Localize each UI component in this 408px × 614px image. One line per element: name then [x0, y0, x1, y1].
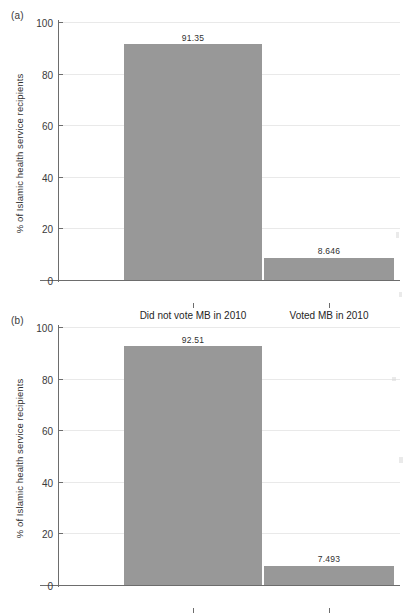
panel-a-ytick-40-label: 40	[42, 174, 58, 184]
panel-a-bar-did-not-vote	[124, 44, 262, 280]
panel-b-ytick-100: 100	[36, 318, 58, 336]
panel-b-xtick-mark-voted	[329, 608, 330, 613]
scan-artifact	[399, 457, 403, 463]
panel-b-ytick-20-label: 20	[42, 530, 58, 540]
panel-b-x-axis-spine	[40, 585, 400, 586]
panel-a-ytick-0: 0	[47, 271, 58, 289]
panel-a-bar-label-did-not-vote: 91.35	[182, 33, 204, 43]
scan-artifact	[396, 232, 399, 238]
panel-b: (b) % of Islamic health service recipien…	[0, 305, 408, 614]
panel-a-ytick-20: 20	[42, 219, 58, 237]
panel-a-ytick-100: 100	[36, 13, 58, 31]
panel-a-ytick-60-mark	[58, 125, 63, 126]
panel-b-ytick-60-mark	[58, 430, 63, 431]
panel-b-ytick-40-mark	[58, 482, 63, 483]
panel-a-ytick-40: 40	[42, 168, 58, 186]
panel-a-ytick-60-label: 60	[42, 122, 58, 132]
scan-artifact	[399, 292, 402, 297]
panel-b-ytick-80: 80	[42, 370, 58, 388]
panel-b-gridline-100	[58, 327, 400, 328]
panel-b-ytick-40-label: 40	[42, 479, 58, 489]
panel-a-plot-area: 0 20 40 60 80 100	[58, 22, 400, 280]
scan-artifact	[392, 377, 396, 381]
panel-b-ytick-60: 60	[42, 421, 58, 439]
panel-b-ytick-80-mark	[58, 379, 63, 380]
panel-b-ytick-20: 20	[42, 524, 58, 542]
panel-a-bar-label-voted: 8.646	[318, 246, 340, 256]
panel-a-tag: (a)	[11, 10, 24, 21]
panel-b-ytick-100-mark	[58, 327, 63, 328]
panel-a-ytick-40-mark	[58, 177, 63, 178]
panel-a-ytick-0-label: 0	[47, 277, 58, 287]
panel-a-ytick-80-label: 80	[42, 71, 58, 81]
panel-a-ytick-80: 80	[42, 65, 58, 83]
panel-b-ytick-0-mark	[58, 585, 63, 586]
panel-a-ytick-60: 60	[42, 116, 58, 134]
panel-b-ytick-100-label: 100	[36, 324, 58, 334]
panel-b-y-axis-title: % of Islamic health service recipients	[14, 354, 25, 564]
panel-b-xtick-mark-did-not-vote	[193, 608, 194, 613]
panel-b-ytick-40: 40	[42, 473, 58, 491]
panel-b-ytick-80-label: 80	[42, 376, 58, 386]
panel-a-y-axis-title: % of Islamic health service recipients	[14, 49, 25, 259]
panel-b-bar-label-voted: 7.493	[318, 554, 340, 564]
panel-a-ytick-20-mark	[58, 228, 63, 229]
panel-a-ytick-0-mark	[58, 280, 63, 281]
panel-b-plot-area: 0 20 40 60 80 100	[58, 327, 400, 585]
panel-a-x-axis-spine	[40, 280, 400, 281]
panel-b-ytick-20-mark	[58, 533, 63, 534]
panel-a-gridline-100	[58, 22, 400, 23]
panel-a: (a) % of Islamic health service recipien…	[0, 0, 408, 307]
panel-b-bar-label-did-not-vote: 92.51	[182, 335, 204, 345]
panel-a-ytick-80-mark	[58, 74, 63, 75]
panel-b-ytick-0-label: 0	[47, 582, 58, 592]
panel-a-bar-voted	[264, 258, 394, 280]
panel-b-tag: (b)	[11, 315, 24, 326]
panel-b-bar-did-not-vote	[124, 346, 262, 585]
panel-b-ytick-0: 0	[47, 576, 58, 594]
panel-b-bar-voted	[264, 566, 394, 585]
panel-a-ytick-20-label: 20	[42, 225, 58, 235]
figure-two-panel-bar-chart: (a) % of Islamic health service recipien…	[0, 0, 408, 614]
panel-b-ytick-60-label: 60	[42, 427, 58, 437]
panel-a-ytick-100-label: 100	[36, 19, 58, 29]
panel-a-ytick-100-mark	[58, 22, 63, 23]
